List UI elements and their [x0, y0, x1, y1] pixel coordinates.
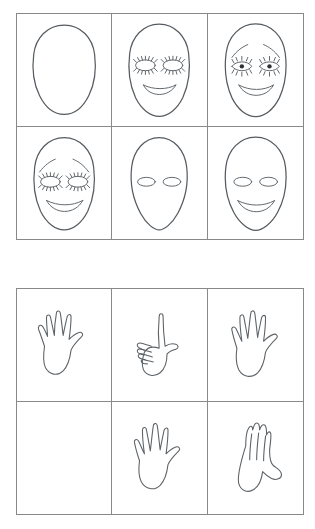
- flat-hand-icon: [208, 402, 303, 515]
- hand-cell-open-left[interactable]: [17, 289, 112, 402]
- pointing-hand-icon: [112, 289, 206, 401]
- worksheet-sheet: [0, 0, 315, 529]
- hands-grid: [16, 288, 304, 515]
- face-cell-brows-closed-eyes-smile[interactable]: [17, 127, 112, 240]
- face-cell-closed-eyes-smile[interactable]: [112, 14, 207, 127]
- face-oval-eyes-smile-icon: [208, 127, 303, 240]
- hand-cell-pointing[interactable]: [112, 289, 207, 402]
- hand-cell-open-right[interactable]: [208, 289, 303, 402]
- face-brows-closed-eyes-smile-icon: [17, 127, 111, 240]
- face-brows-open-eyes-smile-icon: [208, 14, 303, 126]
- open-hand-icon: [208, 289, 303, 401]
- face-blank-icon: [17, 14, 111, 126]
- face-cell-oval-eyes[interactable]: [112, 127, 207, 240]
- face-oval-eyes-icon: [112, 127, 206, 240]
- open-hand-icon: [17, 289, 111, 401]
- face-cell-blank[interactable]: [17, 14, 112, 127]
- empty-cell-placeholder: [17, 402, 111, 515]
- hand-cell-flat[interactable]: [208, 402, 303, 515]
- hand-cell-open-bottom[interactable]: [112, 402, 207, 515]
- face-cell-brows-open-eyes-smile[interactable]: [208, 14, 303, 127]
- face-cell-oval-eyes-smile[interactable]: [208, 127, 303, 240]
- faces-grid: [16, 13, 304, 240]
- hand-cell-empty[interactable]: [17, 402, 112, 515]
- face-closed-eyes-smile-icon: [112, 14, 206, 126]
- open-hand-icon: [112, 402, 206, 515]
